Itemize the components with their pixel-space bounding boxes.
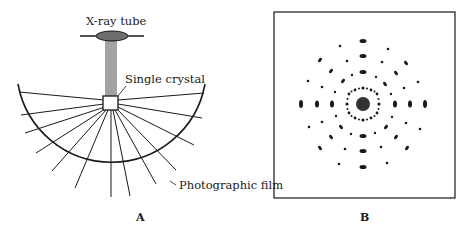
- panel-a-label: A: [136, 212, 145, 223]
- panel-a-diagram: [18, 31, 205, 197]
- diffraction-spots: [299, 39, 427, 169]
- photographic-film-label: Photographic film: [179, 180, 283, 192]
- xray-beam: [106, 40, 116, 97]
- single-crystal-label: Single crystal: [125, 74, 205, 86]
- panel-b-diagram: [274, 12, 455, 198]
- laue-figure: X-ray tube Single crystal Photographic f…: [0, 0, 469, 232]
- single-crystal: [103, 96, 118, 110]
- xray-tube-label: X-ray tube: [86, 16, 146, 28]
- panel-b-label: B: [360, 212, 369, 223]
- xray-tube-icon: [80, 31, 144, 41]
